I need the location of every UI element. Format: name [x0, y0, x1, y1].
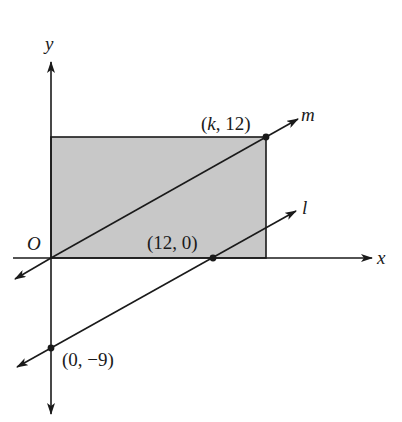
coordinate-diagram: y x O m l (k, 12) (12, 0) (0, −9) — [0, 0, 402, 422]
y-axis-label: y — [43, 33, 54, 54]
origin-label: O — [27, 233, 41, 254]
point-k-12 — [263, 134, 270, 141]
line-m-label: m — [301, 104, 315, 125]
point-k-12-label: (k, 12) — [201, 113, 251, 135]
line-m-backward — [15, 258, 51, 279]
line-l-label: l — [302, 197, 307, 218]
point-12-0-label: (12, 0) — [147, 232, 198, 254]
point-0-neg9-label: (0, −9) — [62, 349, 114, 371]
point-0-neg9 — [48, 345, 55, 352]
x-axis-label: x — [376, 247, 386, 268]
line-l-backward — [17, 348, 51, 367]
point-12-0 — [210, 255, 217, 262]
